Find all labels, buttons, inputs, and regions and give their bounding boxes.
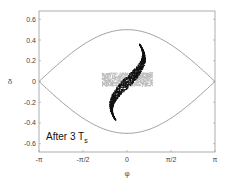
svg-text:0.6: 0.6: [26, 16, 36, 23]
svg-text:0.4: 0.4: [26, 37, 36, 44]
svg-text:π: π: [213, 156, 218, 163]
svg-text:-0.2: -0.2: [24, 99, 36, 106]
x-axis-label: φ: [124, 169, 129, 178]
svg-text:-0.6: -0.6: [24, 140, 36, 147]
annotation-label: After 3 Ts: [46, 131, 88, 144]
svg-text:-π/2: -π/2: [76, 156, 89, 163]
phase-space-plot: -π-π/20π/2π 0.60.40.20-0.2-0.4-0.6 φ δ A…: [0, 0, 229, 185]
y-axis-label: δ: [8, 77, 13, 86]
svg-text:0: 0: [32, 78, 36, 85]
svg-text:0: 0: [125, 156, 129, 163]
svg-text:0.2: 0.2: [26, 57, 36, 64]
svg-text:-π: -π: [35, 156, 42, 163]
svg-text:π/2: π/2: [166, 156, 177, 163]
svg-text:-0.4: -0.4: [24, 119, 36, 126]
